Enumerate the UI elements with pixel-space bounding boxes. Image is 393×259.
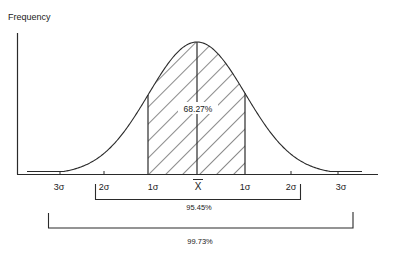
normal-distribution-diagram: Frequency 68.27% 3σ 2σ 1σ 1σ 2σ 3σ X 95.… bbox=[0, 0, 393, 259]
tick-label-left-3sigma: 3σ bbox=[54, 182, 65, 192]
tick-label-right-1sigma: 1σ bbox=[240, 182, 251, 192]
tick-label-left-2sigma: 2σ bbox=[99, 182, 110, 192]
tick-label-left-1sigma: 1σ bbox=[148, 182, 159, 192]
three-sigma-bracket bbox=[49, 212, 354, 228]
one-sigma-percentage: 68.27% bbox=[184, 104, 213, 114]
y-axis-label: Frequency bbox=[8, 12, 51, 22]
three-sigma-percentage: 99.73% bbox=[187, 237, 213, 246]
two-sigma-percentage: 95.45% bbox=[186, 203, 212, 212]
mean-label: X bbox=[195, 181, 202, 192]
tick-label-right-2sigma: 2σ bbox=[286, 182, 297, 192]
tick-label-right-3sigma: 3σ bbox=[336, 182, 347, 192]
